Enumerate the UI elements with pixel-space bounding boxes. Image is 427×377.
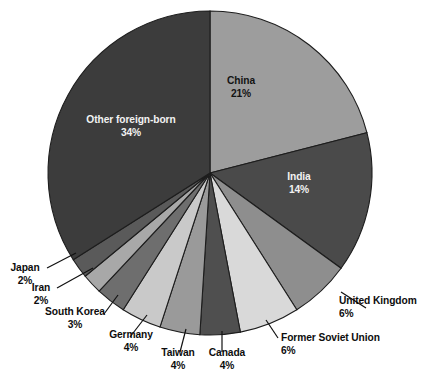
slice-label-south-korea: South Korea 3% <box>44 305 105 330</box>
slice-label-japan-name: Japan <box>5 261 46 274</box>
slice-label-china: China 21% <box>206 74 277 99</box>
slice-label-japan-value: 2% <box>5 274 46 287</box>
slice-label-iran-value: 2% <box>25 294 57 307</box>
slice-label-india-value: 14% <box>268 183 329 196</box>
slice-label-germany-name: Germany <box>102 328 160 341</box>
slice-label-former-soviet-union-value: 6% <box>281 344 391 357</box>
slice-label-taiwan: Taiwan 4% <box>154 346 202 371</box>
slice-label-united-kingdom-value: 6% <box>339 307 425 320</box>
slice-label-united-kingdom: United Kingdom 6% <box>339 294 425 319</box>
slice-label-india-name: India <box>268 170 329 183</box>
slice-label-taiwan-value: 4% <box>154 359 202 372</box>
slice-label-south-korea-value: 3% <box>44 318 105 331</box>
slice-label-canada: Canada 4% <box>202 346 252 371</box>
slice-label-india: India 14% <box>268 170 329 195</box>
slice-label-canada-value: 4% <box>202 359 252 372</box>
slice-label-japan: Japan 2% <box>5 261 46 286</box>
slice-label-former-soviet-union: Former Soviet Union 6% <box>281 331 391 356</box>
slice-label-other-foreign-born-value: 34% <box>71 126 190 139</box>
slice-label-germany-value: 4% <box>102 341 160 354</box>
slice-label-china-name: China <box>206 74 277 87</box>
slice-label-south-korea-name: South Korea <box>44 305 105 318</box>
slice-label-former-soviet-union-name: Former Soviet Union <box>281 331 391 344</box>
slice-label-other-foreign-born: Other foreign-born 34% <box>71 113 190 138</box>
slice-label-united-kingdom-name: United Kingdom <box>339 294 425 307</box>
slice-label-china-value: 21% <box>206 87 277 100</box>
leader-line-japan <box>47 253 76 268</box>
slice-label-other-foreign-born-name: Other foreign-born <box>71 113 190 126</box>
slice-label-germany: Germany 4% <box>102 328 160 353</box>
slice-label-taiwan-name: Taiwan <box>154 346 202 359</box>
pie-chart: China 21% India 14% Other foreign-born 3… <box>0 0 427 377</box>
slice-label-canada-name: Canada <box>202 346 252 359</box>
